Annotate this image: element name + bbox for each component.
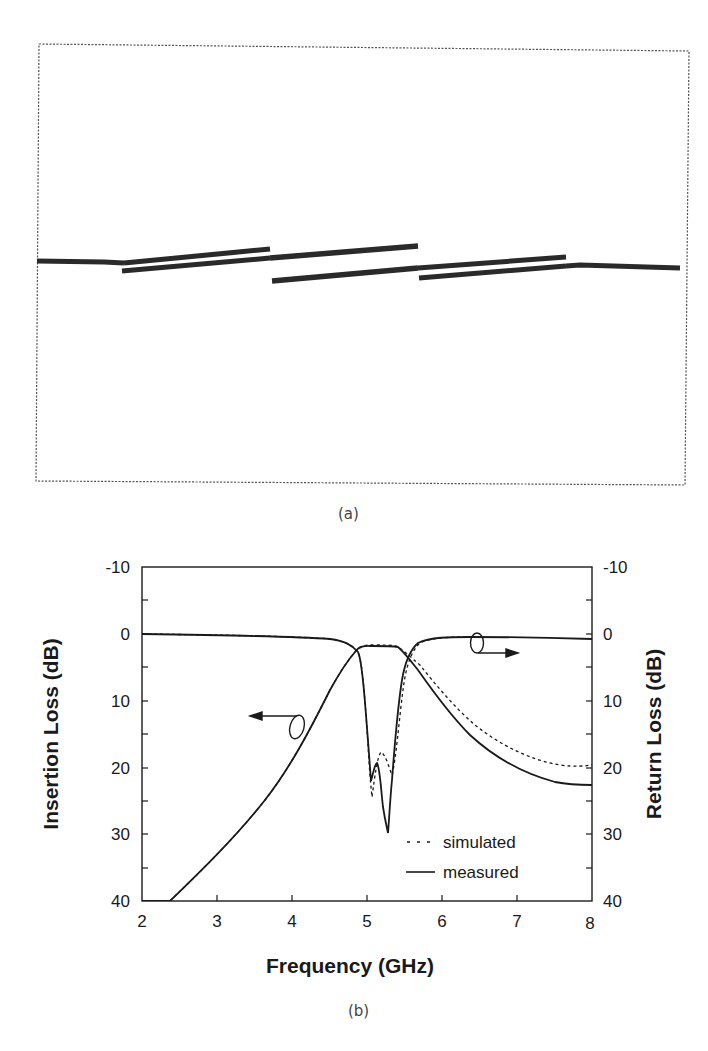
svg-text:8: 8 bbox=[585, 914, 594, 933]
svg-text:4: 4 bbox=[287, 912, 296, 931]
x-axis-ticks bbox=[217, 895, 517, 901]
filter-layout-diagram bbox=[36, 44, 689, 485]
svg-text:measured: measured bbox=[443, 863, 519, 882]
svg-text:-10: -10 bbox=[603, 558, 628, 577]
svg-text:10: 10 bbox=[111, 692, 130, 711]
return-loss-group-ellipse bbox=[471, 633, 484, 653]
figure-b-caption: (b) bbox=[348, 1002, 369, 1020]
svg-text:0: 0 bbox=[121, 625, 130, 644]
svg-text:10: 10 bbox=[603, 692, 622, 711]
svg-text:3: 3 bbox=[212, 912, 221, 931]
return-loss-simulated-curve bbox=[142, 634, 475, 797]
right-tick-labels: -10 0 10 20 30 40 bbox=[603, 558, 628, 911]
left-axis-pointer-annotation bbox=[250, 712, 307, 740]
x-tick-labels: 2 3 4 5 6 7 8 bbox=[137, 912, 594, 933]
svg-text:30: 30 bbox=[111, 825, 130, 844]
svg-text:2: 2 bbox=[137, 912, 146, 931]
legend-item-simulated: simulated bbox=[407, 833, 516, 852]
microstrip-lines bbox=[37, 246, 680, 281]
svg-text:0: 0 bbox=[603, 625, 612, 644]
svg-text:40: 40 bbox=[603, 892, 622, 911]
svg-text:20: 20 bbox=[111, 759, 130, 778]
svg-text:5: 5 bbox=[362, 912, 371, 931]
coupled-section-2-top bbox=[270, 246, 418, 258]
svg-text:20: 20 bbox=[603, 759, 622, 778]
svg-text:-10: -10 bbox=[105, 558, 130, 577]
legend-item-measured: measured bbox=[406, 863, 519, 882]
left-axis-title: Insertion Loss (dB) bbox=[39, 638, 62, 829]
insertion-loss-group-ellipse bbox=[287, 714, 307, 741]
right-axis-title: Return Loss (dB) bbox=[642, 649, 665, 819]
figure-canvas: -10 0 10 20 30 40 -10 0 10 20 30 40 2 3 … bbox=[0, 0, 708, 1051]
chart-legend: simulated measured bbox=[406, 833, 519, 882]
right-arrow-icon bbox=[506, 649, 518, 657]
svg-text:30: 30 bbox=[603, 825, 622, 844]
x-axis-title: Frequency (GHz) bbox=[266, 954, 434, 977]
right-axis-ticks bbox=[586, 600, 592, 868]
svg-text:7: 7 bbox=[512, 912, 521, 931]
frequency-response-chart: -10 0 10 20 30 40 -10 0 10 20 30 40 2 3 … bbox=[39, 558, 665, 977]
output-feed-line bbox=[566, 265, 680, 268]
svg-text:simulated: simulated bbox=[443, 833, 516, 852]
left-tick-labels: -10 0 10 20 30 40 bbox=[105, 558, 130, 911]
svg-text:40: 40 bbox=[111, 892, 130, 911]
coupled-section-2-bottom bbox=[272, 268, 418, 281]
left-axis-ticks bbox=[142, 600, 148, 868]
svg-text:6: 6 bbox=[437, 912, 446, 931]
input-feed-line bbox=[37, 261, 124, 263]
left-arrow-icon bbox=[250, 712, 262, 720]
figure-a-caption: (a) bbox=[338, 505, 359, 523]
